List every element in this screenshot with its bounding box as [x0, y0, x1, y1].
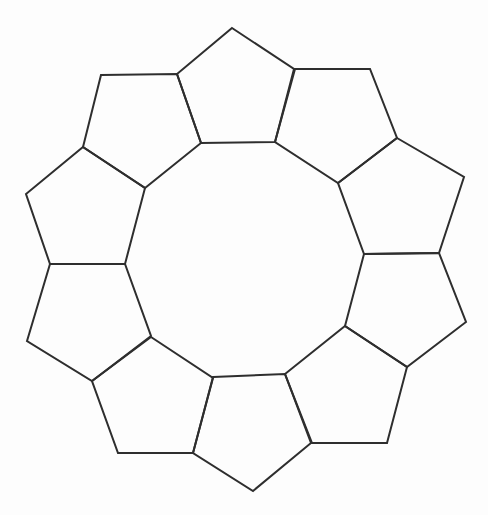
pentagon-right-lower [345, 253, 466, 367]
pentagon-bottom-right [285, 326, 407, 443]
pentagon-left-upper [26, 147, 145, 264]
pentagon-bottom [193, 374, 311, 491]
diagram-canvas [0, 0, 488, 515]
pentagon-ring-diagram [0, 0, 488, 515]
pentagon-right-upper [338, 138, 464, 254]
pentagon-ring [26, 28, 466, 491]
pentagon-bottom-left [92, 337, 213, 453]
pentagon-top-right [275, 69, 397, 183]
pentagon-top-left [83, 74, 201, 188]
pentagon-left-lower [27, 264, 151, 381]
